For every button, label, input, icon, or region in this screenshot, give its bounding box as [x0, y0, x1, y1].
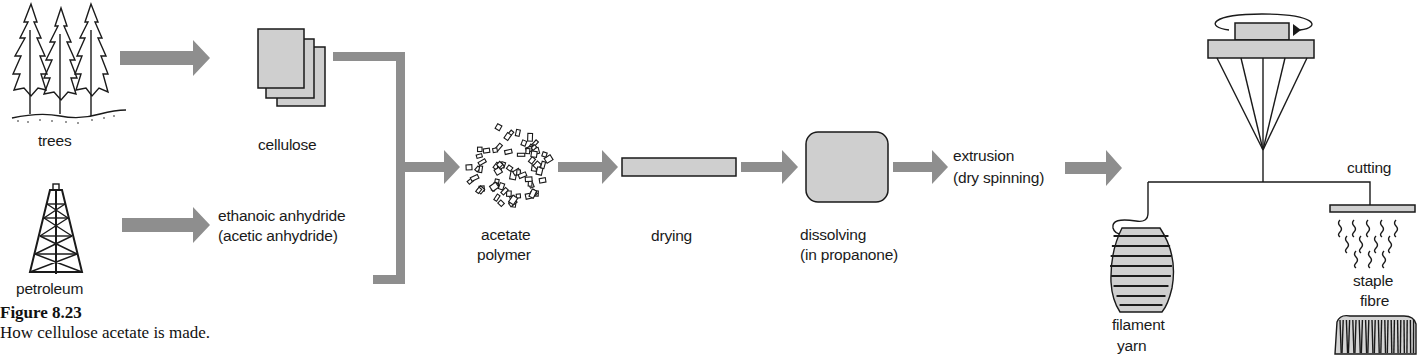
figure-caption: How cellulose acetate is made. — [0, 323, 210, 342]
fibre-piece — [1375, 236, 1378, 253]
dissolving-label-line1: dissolving — [800, 226, 866, 243]
fibre-piece — [1346, 236, 1349, 253]
trees-icon — [12, 4, 126, 124]
dissolving-block-icon — [806, 132, 888, 202]
staple-fibre-label-line2: fibre — [1360, 292, 1389, 309]
flake — [539, 178, 546, 183]
trees-label: trees — [38, 132, 72, 149]
flake — [479, 166, 483, 173]
cellulose-sheets-icon — [258, 29, 325, 106]
arrow-trees-to-cellulose — [120, 40, 210, 76]
flake — [478, 159, 486, 166]
flake — [476, 154, 482, 159]
flake — [506, 165, 512, 171]
petroleum-label: petroleum — [16, 280, 83, 297]
fibre-piece — [1360, 236, 1363, 253]
figure-title: Figure 8.23 — [0, 303, 82, 322]
bale-fibre-line — [1391, 320, 1392, 353]
arrow-to-extrusion — [893, 150, 948, 184]
flake — [521, 140, 527, 146]
arrow-to-acetate-polymer — [405, 150, 460, 184]
flake — [526, 148, 530, 153]
flake — [504, 133, 511, 141]
flake — [528, 133, 533, 141]
fibre-piece — [1355, 251, 1358, 268]
arrow-to-drying — [558, 150, 618, 184]
fibre-piece — [1367, 220, 1370, 237]
acetate-polymer-label-line1: acetate — [481, 226, 530, 243]
drying-label: drying — [651, 227, 692, 244]
cut-fibre-pieces — [1339, 220, 1398, 268]
filament-yarn-label-line1: filament — [1112, 316, 1166, 333]
cutting-label: cutting — [1347, 159, 1391, 176]
spinneret-icon — [1208, 14, 1314, 182]
anhydride-label-line1: ethanoic anhydride — [218, 207, 345, 224]
flake — [483, 148, 490, 153]
extrusion-label-line2: (dry spinning) — [953, 169, 1044, 186]
cutter-icon — [1330, 205, 1415, 212]
flake — [493, 148, 498, 153]
flakes-icon — [466, 124, 553, 208]
arrow-to-dissolving — [741, 150, 798, 184]
bale-fibre-line — [1381, 320, 1382, 353]
staple-fibre-label-line1: staple — [1353, 272, 1393, 289]
flake — [515, 129, 520, 136]
flake — [498, 200, 505, 207]
drying-bar-icon — [622, 158, 736, 176]
flake — [504, 149, 512, 154]
flake — [531, 151, 537, 157]
flake — [540, 161, 545, 168]
merge-connector — [333, 52, 405, 284]
dissolving-label-line2: (in propanone) — [800, 246, 898, 263]
fibre-piece — [1369, 251, 1372, 268]
oil-derrick-icon — [30, 184, 82, 274]
flake — [470, 174, 479, 181]
bale-fibre-line — [1374, 320, 1375, 353]
extrusion-label-line1: extrusion — [953, 147, 1014, 164]
flake — [528, 157, 535, 164]
bale-fibre-line — [1368, 320, 1369, 353]
bale-fibre-line — [1378, 320, 1379, 353]
flake — [495, 124, 502, 131]
cellulose-acetate-process-diagram: trees cellulose petroleum ethanoic anhyd… — [0, 0, 1418, 355]
fibre-piece — [1383, 251, 1386, 268]
fibre-piece — [1381, 220, 1384, 237]
fibre-piece — [1395, 220, 1398, 237]
fibre-piece — [1339, 220, 1342, 237]
flake — [529, 189, 537, 198]
bale-fibre-line — [1372, 320, 1373, 353]
flake — [525, 177, 532, 182]
fibre-piece — [1353, 220, 1356, 237]
anhydride-label-line2: (acetic anhydride) — [218, 227, 338, 244]
bale-fibre-line — [1387, 320, 1388, 353]
fibre-piece — [1389, 236, 1392, 253]
fibre-bale-icon — [1335, 316, 1416, 354]
filament-yarn-label-line2: yarn — [1117, 337, 1146, 354]
bale-fibre-line — [1394, 320, 1395, 353]
arrow-petroleum-to-anhydride — [122, 207, 210, 243]
flake — [478, 147, 482, 151]
flake — [494, 194, 500, 201]
flake — [542, 152, 547, 157]
flake — [517, 153, 524, 156]
cellulose-label: cellulose — [258, 136, 317, 153]
arrow-to-spinneret — [1065, 150, 1122, 186]
yarn-bobbin-icon — [1110, 228, 1173, 312]
flake — [466, 165, 472, 170]
acetate-polymer-label-line2: polymer — [477, 246, 531, 263]
bale-fibre-line — [1385, 320, 1386, 353]
